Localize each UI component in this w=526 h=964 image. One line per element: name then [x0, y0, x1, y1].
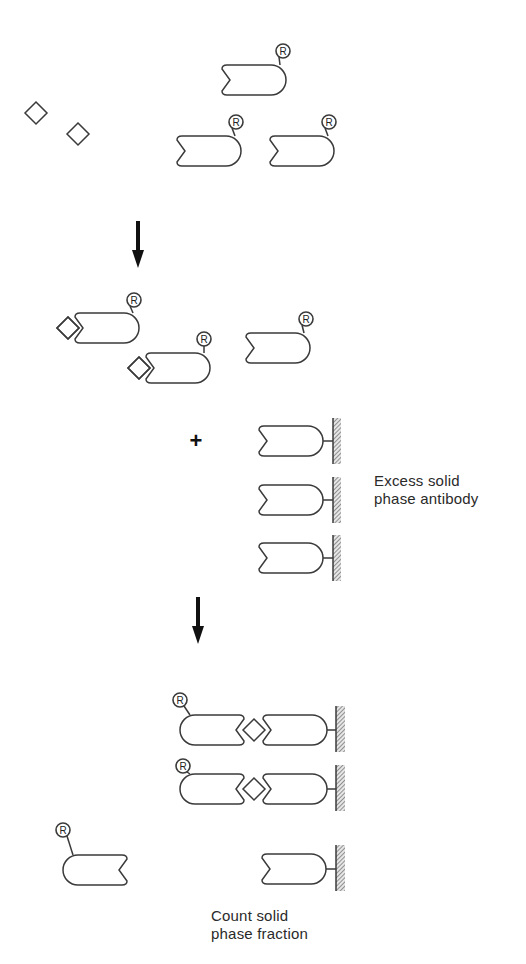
solid-phase-antibody [259, 535, 341, 581]
solid-phase-antibody [259, 477, 341, 523]
antibody-body [222, 65, 286, 95]
antigen-antibody-complex: R [128, 332, 211, 383]
labeled-antibody-body [180, 774, 244, 804]
antibody-body [75, 313, 139, 343]
antigen-diamond-icon [243, 778, 265, 800]
radiolabel-r-icon: R [325, 117, 332, 128]
down-arrow-icon [192, 597, 204, 644]
solid-phase-support [333, 418, 341, 464]
label-tether [67, 836, 73, 855]
labeled-antibody-body [180, 715, 244, 745]
caption-line: Excess solid [374, 472, 479, 490]
sandwich-complex: R [173, 693, 345, 752]
radiolabel-r-icon: R [176, 695, 183, 706]
labeled-antibody: R [177, 115, 243, 166]
antibody-body [262, 854, 326, 884]
labeled-antibody: R [222, 44, 290, 95]
antibody-body [177, 136, 241, 166]
radiolabel-r-icon: R [130, 295, 137, 306]
radiolabel-r-icon: R [279, 46, 286, 57]
solid-phase-antibody [259, 418, 341, 464]
antigen-diamond-icon [243, 719, 265, 741]
radiolabel-r-icon: R [179, 761, 186, 772]
plus-icon: + [190, 428, 203, 453]
sandwich-complex: R [176, 759, 345, 811]
radiolabel-r-icon: R [59, 825, 66, 836]
caption-line: phase antibody [374, 490, 479, 508]
antigen-diamond-icon [57, 317, 79, 339]
down-arrow-icon [132, 221, 144, 268]
antigen-diamond-icon [128, 357, 150, 379]
antibody-body [270, 136, 334, 166]
solid-phase-support [333, 535, 341, 581]
antibody-body [63, 855, 127, 885]
antibody-body [246, 333, 310, 363]
antibody-body [259, 485, 323, 515]
arrow-head [132, 250, 144, 268]
radiolabel-r-icon: R [232, 117, 239, 128]
excess-solid-phase-antibody-caption: Excess solid phase antibody [374, 472, 479, 508]
solid-antibody-body [263, 774, 327, 804]
radiolabel-r-icon: R [302, 314, 309, 325]
solid-antibody-body [263, 715, 327, 745]
count-solid-phase-fraction-caption: Count solid phase fraction [211, 907, 308, 943]
antigen-diamond-icon [25, 102, 47, 124]
arrow-head [192, 626, 204, 644]
label-tether [279, 57, 280, 65]
antigen-diamond-icon [67, 123, 89, 145]
radiolabel-r-icon: R [200, 334, 207, 345]
label-tether [184, 706, 190, 715]
free-labeled-antibody: R [56, 823, 127, 885]
caption-line: phase fraction [211, 925, 308, 943]
free-labeled-antibody: R [246, 312, 313, 363]
solid-phase-support [336, 765, 345, 811]
solid-phase-support [336, 845, 345, 891]
antigen-antibody-complex: R [57, 293, 141, 343]
arrow-shaft [136, 221, 140, 252]
unbound-solid-phase-antibody [262, 845, 345, 891]
labeled-antibody: R [270, 115, 336, 166]
caption-line: Count solid [211, 907, 308, 925]
antibody-body [259, 426, 323, 456]
antibody-body [259, 543, 323, 573]
arrow-shaft [196, 597, 200, 628]
solid-phase-support [333, 477, 341, 523]
antibody-body [146, 353, 210, 383]
solid-phase-support [336, 706, 345, 752]
